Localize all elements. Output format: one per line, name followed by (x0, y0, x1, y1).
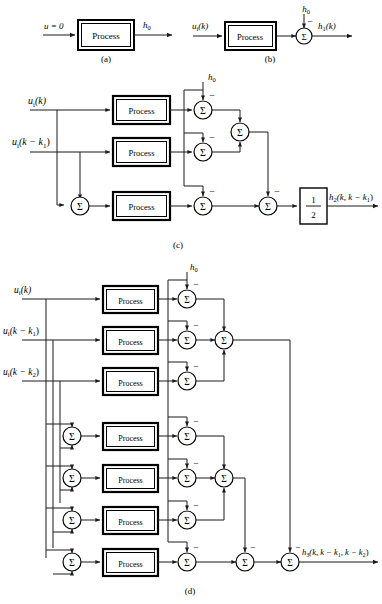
panel-d-sum-1: Σ (178, 290, 196, 308)
panel-c-sum1-sigma: Σ (200, 105, 206, 116)
panel-d-sum-3: Σ (178, 372, 196, 390)
panel-d-minus-4: − (193, 417, 198, 427)
panel-d-sum-4: Σ (178, 427, 196, 445)
panel-d-process-block-7: Process (103, 549, 158, 576)
panel-b-output-label: h1(k) (318, 21, 336, 32)
panel-d-process3-label: Process (118, 379, 142, 388)
panel-c-input-sum-junction: Σ (71, 197, 89, 215)
panel-d-sum8-sigma: Σ (221, 336, 227, 346)
panel-d-minus-2: − (193, 321, 198, 331)
panel-a-process-block: Process (78, 20, 134, 50)
panel-d-input-sum-6: Σ (63, 511, 81, 529)
panel-c-process-block-2: Process (113, 138, 170, 166)
panel-d-output-label: h3(k, k − k1, k − k2) (302, 547, 369, 558)
panel-d-process-block-5: Process (103, 465, 158, 492)
panel-c-process2-label: Process (129, 148, 155, 158)
panel-c-sum-5: Σ (259, 197, 277, 215)
panel-d-sum2-sigma: Σ (184, 336, 190, 346)
panel-d-sum3-sigma: Σ (184, 377, 190, 387)
panel-d-sum-7: Σ (178, 553, 196, 571)
panel-b-minus-sign: − (307, 16, 313, 27)
panel-c-sum-1: Σ (194, 101, 212, 119)
panel-c-process1-label: Process (129, 106, 155, 116)
panel-b-process-label: Process (237, 32, 263, 42)
panel-c-gain-numerator: 1 (311, 195, 316, 205)
panel-d-process1-label: Process (118, 297, 142, 306)
panel-d-process4-label: Process (118, 434, 142, 443)
panel-c-gain-block: 1 2 (300, 188, 327, 224)
panel-d-process6-label: Process (118, 518, 142, 527)
panel-d-sum-8: Σ (215, 331, 233, 349)
panel-d-process-block-1: Process (103, 286, 158, 313)
panel-d-minus-8: − (250, 543, 255, 553)
panel-d-input-sum-5: Σ (63, 469, 81, 487)
panel-a-process-label: Process (92, 31, 120, 41)
panel-d-sum5-sigma: Σ (184, 474, 190, 484)
panel-b-sigma: Σ (301, 32, 306, 42)
panel-d-input-sum4-sigma: Σ (69, 431, 75, 442)
panel-d-minus-6: − (193, 501, 198, 511)
panel-c-sum2-sigma: Σ (200, 147, 206, 158)
panel-c-sum-2: Σ (194, 143, 212, 161)
panel-d-process-block-2: Process (103, 327, 158, 354)
panel-d-sum11-sigma: Σ (287, 558, 293, 568)
panel-d-sum7-sigma: Σ (184, 558, 190, 568)
panel-d-sum-9: Σ (215, 469, 233, 487)
panel-d-sum6-sigma: Σ (184, 516, 190, 526)
panel-d-input-sum6-sigma: Σ (69, 515, 75, 526)
figure-block-diagram: u = 0 Process h0 (a) ui(k) Process h0 (0, 0, 382, 604)
panel-b-input-label: ui(k) (192, 21, 208, 32)
panel-d-sum4-sigma: Σ (184, 432, 190, 442)
panel-d-sum9-sigma: Σ (221, 474, 227, 484)
panel-c-minus-2: − (209, 132, 215, 143)
panel-d-sum-6: Σ (178, 511, 196, 529)
panel-c-sum5-sigma: Σ (265, 201, 271, 212)
panel-c-sum-4: Σ (231, 123, 249, 141)
panel-d-minus-3: − (193, 362, 198, 372)
panel-d-input-sum-4: Σ (63, 427, 81, 445)
panel-b-caption: (b) (265, 54, 276, 64)
panel-c-process-block-3: Process (113, 192, 170, 220)
panel-c-input-sum-sigma: Σ (77, 201, 83, 212)
panel-b-process-block: Process (225, 22, 276, 50)
panel-d-input-sum-7: Σ (63, 553, 81, 571)
panel-d-sum10-sigma: Σ (242, 558, 248, 568)
panel-d-sum-11: Σ (281, 553, 299, 571)
panel-d-process-block-4: Process (103, 423, 158, 450)
panel-c-minus-3: − (209, 186, 215, 197)
panel-c-process-block-1: Process (113, 96, 170, 124)
panel-d-minus-1: − (193, 280, 198, 290)
panel-d-process2-label: Process (118, 338, 142, 347)
panel-b-sum-junction: Σ (296, 28, 312, 44)
panel-a-caption: (a) (101, 54, 111, 64)
panel-d-input-sum7-sigma: Σ (69, 557, 75, 568)
panel-c-gain-denominator: 2 (311, 210, 316, 220)
panel-c-minus-4: − (274, 186, 280, 197)
panel-d-sum1-sigma: Σ (184, 295, 190, 305)
panel-c-caption: (c) (173, 240, 183, 250)
panel-c-sum3-sigma: Σ (200, 201, 206, 212)
panel-a-input-label: u = 0 (44, 21, 64, 31)
panel-d-process5-label: Process (118, 476, 142, 485)
panel-d-process7-label: Process (118, 560, 142, 569)
panel-c-sum-3: Σ (194, 197, 212, 215)
panel-d-minus-7: − (193, 543, 198, 553)
panel-c-minus-1: − (209, 90, 215, 101)
panel-c-sum4-sigma: Σ (237, 127, 243, 138)
panel-c-process3-label: Process (129, 202, 155, 212)
panel-d-process-block-3: Process (103, 368, 158, 395)
panel-d-sum-2: Σ (178, 331, 196, 349)
panel-d-minus-9: − (295, 543, 300, 553)
panel-d-process-block-6: Process (103, 507, 158, 534)
panel-d-input1-label: ui(k) (14, 285, 31, 296)
panel-d-minus-5: − (193, 459, 198, 469)
panel-d-sum-5: Σ (178, 469, 196, 487)
panel-d-caption: (d) (185, 586, 196, 596)
panel-d-sum-10: Σ (236, 553, 254, 571)
panel-d-input-sum5-sigma: Σ (69, 473, 75, 484)
